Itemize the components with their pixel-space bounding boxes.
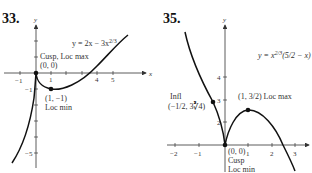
label-cusp-locmax: Cusp, Loc max (40, 52, 89, 61)
tick-x-neg1: −1 (194, 150, 202, 158)
label-loc-min-35: Loc min (228, 165, 255, 173)
figure: 33. x y −1 1 4 5 −1 −5 (0, 0, 312, 173)
label-loc-min: Loc min (45, 103, 72, 112)
tick-x-3: 3 (293, 150, 297, 158)
point-loc-min (49, 87, 54, 92)
chart-35: 35. y −2 −1 1 2 3 2 3 4 y = x2/3(5/2 − x… (163, 11, 311, 173)
point-cusp (34, 71, 39, 76)
tick-y-3: 3 (217, 97, 221, 105)
tick-x-4: 4 (95, 76, 99, 84)
equation-33: y = 2x − 3x2/3 (72, 38, 117, 48)
point-inflection (211, 100, 216, 105)
problem-number-35: 35. (163, 11, 181, 26)
label-infl-coord: (−1/2, 3∛4) (168, 101, 205, 111)
label-cusp-35: Cusp (228, 156, 244, 165)
x-axis-label: x (148, 70, 153, 78)
problem-number-33: 33. (2, 11, 20, 26)
equation-35: y = x2/3(5/2 − x) (257, 50, 311, 60)
y-axis-label: y (33, 16, 38, 24)
label-infl: Infl (170, 92, 182, 101)
label-origin-33: (0, 0) (40, 61, 58, 70)
tick-x-neg2: −2 (170, 150, 178, 158)
tick-x-1: 1 (49, 76, 53, 84)
label-min-coord: (1, −1) (45, 94, 67, 103)
tick-y-neg1: −1 (25, 86, 33, 94)
tick-y-neg5: −5 (25, 150, 33, 158)
label-origin-35: (0, 0) (228, 147, 246, 156)
tick-x-5: 5 (111, 76, 115, 84)
tick-x-2: 2 (270, 150, 274, 158)
tick-x-1: 1 (246, 150, 250, 158)
y-axis-label: y (222, 16, 227, 24)
point-loc-max (246, 108, 251, 113)
tick-y-4: 4 (217, 74, 221, 82)
chart-33: 33. x y −1 1 4 5 −1 −5 (2, 11, 153, 168)
tick-x-neg1: −1 (15, 77, 23, 85)
point-cusp (223, 143, 228, 148)
label-loc-max: (1, 3/2) Loc max (238, 92, 292, 101)
